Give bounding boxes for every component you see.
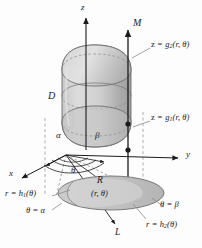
cylindrical-coordinates-figure: z y x M D z = g2(r, θ) z = g1(r, θ) α β … (0, 0, 202, 248)
axis-label-x: x (9, 169, 13, 178)
upper-intersection-point (125, 121, 130, 126)
axis-label-y: y (186, 150, 190, 159)
leader-theta-alpha (52, 203, 62, 210)
angle-label-beta: β (95, 131, 100, 140)
label-theta-alpha: θ = α (26, 206, 45, 215)
label-theta-beta: θ = β (160, 200, 179, 209)
base-region-label-R: R (97, 176, 103, 186)
label-r-h1: r = h1(θ) (5, 189, 36, 199)
label-r-h2: r = h2(θ) (146, 220, 177, 230)
angle-label-alpha: α (56, 131, 61, 140)
y-axis (66, 155, 178, 158)
leader-bottom-surface (133, 121, 150, 127)
angle-label-theta: θ (71, 166, 76, 175)
base-point-label: (r, θ) (91, 189, 108, 198)
bottom-surface-cap (62, 106, 131, 147)
axis-label-z: z (81, 3, 85, 12)
ray-label-L: L (115, 228, 120, 238)
base-region-R (58, 176, 164, 210)
solid-label-M: M (133, 18, 141, 28)
lower-intersection-point (125, 147, 130, 152)
top-surface-cap (62, 45, 131, 86)
leader-top-surface (132, 48, 150, 58)
label-top-surface: z = g2(r, θ) (151, 40, 190, 50)
region-label-D: D (48, 91, 55, 101)
label-bottom-surface: z = g1(r, θ) (151, 113, 190, 123)
